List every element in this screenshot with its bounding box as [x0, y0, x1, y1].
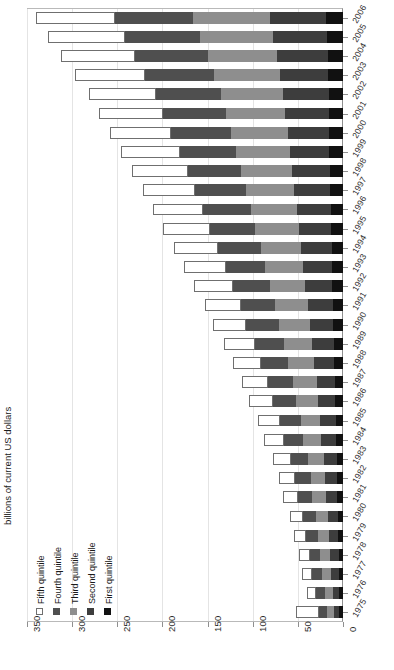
year-tick: [343, 133, 348, 134]
year-tick: [343, 555, 348, 556]
year-tick: [343, 248, 348, 249]
legend-swatch: [53, 608, 60, 615]
legend-item[interactable]: Fifth quintile: [33, 520, 50, 615]
value-tick: [343, 622, 344, 627]
legend-item[interactable]: First quintile: [101, 520, 118, 615]
year-tick: [343, 401, 348, 402]
year-tick: [343, 171, 348, 172]
legend-label: Fifth quintile: [36, 555, 46, 604]
legend-label: First quintile: [104, 555, 114, 604]
year-tick: [343, 536, 348, 537]
year-label: 1975: [350, 597, 368, 619]
value-tick: [162, 622, 163, 627]
year-tick: [343, 114, 348, 115]
legend-item[interactable]: Third quintile: [67, 520, 84, 615]
year-tick: [343, 440, 348, 441]
year-tick: [343, 190, 348, 191]
year-tick: [343, 229, 348, 230]
legend-item[interactable]: Second quintile: [84, 520, 101, 615]
legend-label: Fourth quintile: [53, 547, 63, 604]
value-tick-label: 100: [257, 616, 268, 632]
value-tick-label: 200: [166, 616, 177, 632]
year-tick: [343, 344, 348, 345]
year-tick: [343, 593, 348, 594]
value-tick: [253, 622, 254, 627]
year-tick: [343, 459, 348, 460]
value-tick-label: 250: [121, 616, 132, 632]
axis-title: billions of current US dollars: [2, 407, 13, 525]
year-tick: [343, 75, 348, 76]
year-tick: [343, 478, 348, 479]
year-tick: [343, 209, 348, 210]
value-tick-label: 350: [31, 616, 42, 632]
year-tick: [343, 94, 348, 95]
year-tick: [343, 612, 348, 613]
legend-label: Third quintile: [70, 552, 80, 604]
year-tick: [343, 286, 348, 287]
stacked-bar-chart: 2006200520042003200220012000199919981997…: [0, 0, 394, 670]
year-tick: [343, 382, 348, 383]
year-tick: [343, 325, 348, 326]
year-tick: [343, 516, 348, 517]
year-tick: [343, 305, 348, 306]
value-tick: [208, 622, 209, 627]
year-tick: [343, 56, 348, 57]
chart-legend: Fifth quintileFourth quintileThird quint…: [33, 520, 128, 615]
year-tick: [343, 497, 348, 498]
year-tick: [343, 37, 348, 38]
year-tick: [343, 574, 348, 575]
year-tick: [343, 421, 348, 422]
legend-swatch: [70, 608, 77, 615]
value-tick-label: 150: [212, 616, 223, 632]
year-tick: [343, 18, 348, 19]
value-tick-label: 0: [347, 627, 358, 632]
value-tick: [117, 622, 118, 627]
year-tick: [343, 363, 348, 364]
value-tick: [27, 622, 28, 627]
legend-swatch: [104, 608, 111, 615]
year-tick: [343, 152, 348, 153]
value-tick-label: 50: [302, 621, 313, 632]
value-tick: [72, 622, 73, 627]
value-tick: [298, 622, 299, 627]
legend-swatch: [87, 608, 94, 615]
value-tick-label: 300: [76, 616, 87, 632]
year-tick: [343, 267, 348, 268]
legend-item[interactable]: Fourth quintile: [50, 520, 67, 615]
legend-swatch: [36, 608, 43, 615]
legend-label: Second quintile: [87, 542, 97, 604]
